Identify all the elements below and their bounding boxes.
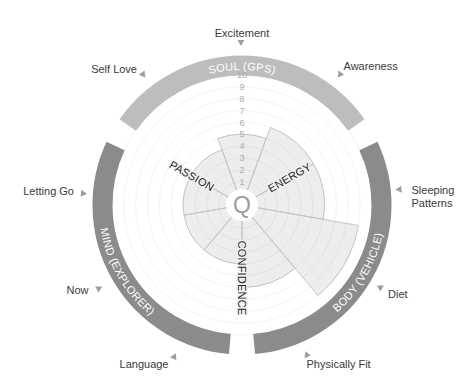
label-self-love: Self Love	[91, 63, 137, 75]
label-physically-fit: Physically Fit	[307, 358, 371, 370]
r-tick-label: 9	[239, 82, 244, 92]
outer-label-language: Language	[120, 352, 179, 370]
wedge-fills	[183, 127, 358, 295]
outer-label-diet: Diet	[375, 282, 407, 300]
triangle-pointer-icon	[170, 352, 179, 360]
r-tick-label: 2	[239, 165, 244, 175]
triangle-pointer-icon	[139, 70, 148, 79]
triangle-pointer-icon	[395, 186, 402, 194]
label-letting-go: Letting Go	[23, 185, 74, 197]
label-now: Now	[66, 284, 88, 296]
triangle-pointer-icon	[375, 282, 384, 291]
outer-label-sleeping-patterns: Sleeping Patterns	[395, 184, 454, 210]
triangle-pointer-icon	[95, 283, 104, 292]
r-tick-label: 3	[239, 153, 244, 163]
outer-label-awareness: Awareness	[335, 60, 398, 80]
q-logo-icon: Q	[233, 192, 251, 218]
r-tick-label: 10	[237, 70, 247, 80]
label-excitement: Excitement	[215, 27, 269, 39]
r-tick-label: 5	[239, 129, 244, 139]
label-awareness: Awareness	[344, 60, 399, 72]
triangle-pointer-icon	[302, 350, 311, 358]
triangle-pointer-icon	[238, 40, 245, 46]
wheel-chart: SOUL (GPS) BODY (VEHICLE) MIND (EXPLORER…	[0, 0, 475, 391]
label-sleeping-patterns-line1: Sleeping	[412, 184, 455, 196]
outer-label-physically-fit: Physically Fit	[302, 350, 371, 370]
label-language: Language	[120, 358, 169, 370]
outer-label-now: Now	[66, 283, 103, 296]
label-sleeping-patterns-line2: Patterns	[412, 197, 453, 209]
r-tick-label: 1	[239, 177, 244, 187]
outer-label-excitement: Excitement	[215, 27, 269, 46]
r-tick-label: 6	[239, 118, 244, 128]
label-diet: Diet	[388, 288, 408, 300]
r-tick-label: 8	[239, 94, 244, 104]
outer-label-letting-go: Letting Go	[23, 185, 87, 197]
r-tick-label: 4	[239, 141, 244, 151]
outer-label-self-love: Self Love	[91, 63, 148, 80]
triangle-pointer-icon	[81, 190, 87, 197]
axis-label-confidence: CONFIDENCE	[236, 241, 248, 316]
r-tick-label: 7	[239, 106, 244, 116]
